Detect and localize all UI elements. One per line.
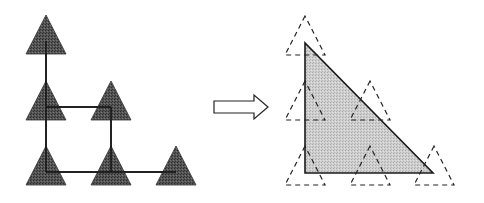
transform-arrow-icon <box>214 95 268 119</box>
covering-triangle <box>305 43 433 173</box>
diagram-svg <box>0 0 484 203</box>
triangle-node-n22 <box>156 146 196 185</box>
diagram-canvas <box>0 0 484 203</box>
triangle-lattice <box>26 15 196 185</box>
